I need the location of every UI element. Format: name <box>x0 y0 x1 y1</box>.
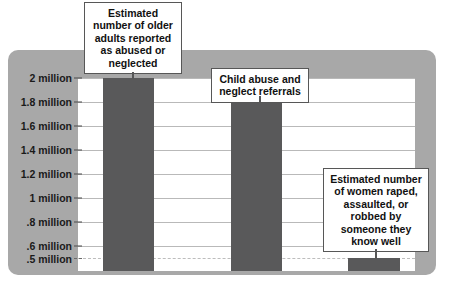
y-tick-mark <box>74 174 82 175</box>
y-tick-mark <box>74 198 82 199</box>
bar-women-victimized <box>348 258 400 271</box>
y-tick-mark <box>74 222 82 223</box>
bar-older-adults <box>103 78 154 271</box>
chart-figure: 2 million 1.8 million 1.6 million 1.4 mi… <box>0 0 450 293</box>
y-tick-label-0-6-million: .6 million <box>26 240 72 252</box>
y-tick-label-2-million: 2 million <box>29 72 72 84</box>
callout-stem-older-adults <box>132 72 134 79</box>
y-tick-label-0-8-million: .8 million <box>26 216 72 228</box>
y-tick-label-1-2-million: 1.2 million <box>21 168 72 180</box>
y-tick-mark <box>74 78 82 79</box>
y-tick-mark <box>74 246 82 247</box>
callout-women-victimized: Estimated number of women raped, assault… <box>323 168 429 252</box>
callout-stem-women-victimized <box>375 249 377 259</box>
callout-older-adults: Estimated number of older adults reporte… <box>84 2 182 74</box>
y-tick-label-0-5-million: .5 million <box>26 253 72 265</box>
y-tick-label-1-4-million: 1.4 million <box>21 144 72 156</box>
y-tick-label-1-6-million: 1.6 million <box>21 120 72 132</box>
y-tick-mark <box>74 126 82 127</box>
y-tick-label-1-8-million: 1.8 million <box>21 96 72 108</box>
y-tick-label-1-million: 1 million <box>29 192 72 204</box>
y-tick-mark-dashed <box>74 258 82 260</box>
y-axis: 2 million 1.8 million 1.6 million 1.4 mi… <box>8 78 72 271</box>
callout-stem-child-abuse <box>259 96 261 103</box>
y-tick-mark <box>74 102 82 103</box>
y-tick-mark <box>74 150 82 151</box>
bar-child-abuse-referrals <box>231 102 282 271</box>
